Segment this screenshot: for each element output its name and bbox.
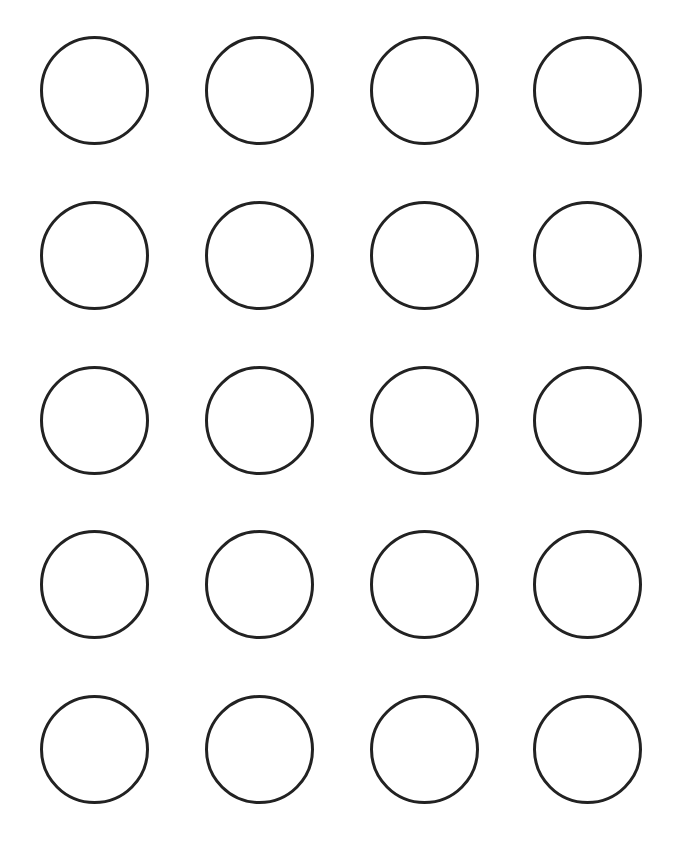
circle-outline	[205, 36, 314, 145]
circle-outline	[370, 201, 479, 310]
circle-outline	[533, 366, 642, 475]
circle-outline	[370, 36, 479, 145]
circle-outline	[370, 366, 479, 475]
circle-outline	[533, 695, 642, 804]
circle-outline	[40, 36, 149, 145]
circle-outline	[533, 36, 642, 145]
circle-outline	[205, 366, 314, 475]
circle-outline	[533, 530, 642, 639]
circle-outline	[40, 366, 149, 475]
circle-outline	[370, 530, 479, 639]
circle-outline	[40, 695, 149, 804]
circle-outline	[40, 530, 149, 639]
circle-outline	[205, 695, 314, 804]
circle-outline	[205, 530, 314, 639]
circle-outline	[533, 201, 642, 310]
circle-template-sheet	[0, 0, 678, 856]
circle-outline	[370, 695, 479, 804]
circle-outline	[205, 201, 314, 310]
circle-outline	[40, 201, 149, 310]
